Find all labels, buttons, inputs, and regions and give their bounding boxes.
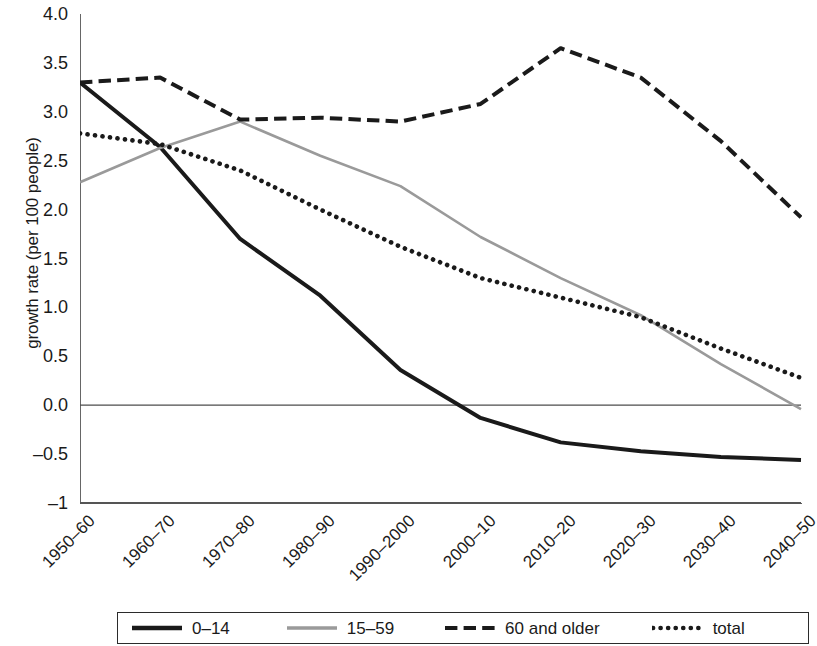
series-line-1 — [80, 122, 801, 410]
solid-gray-line-swatch — [286, 621, 338, 635]
chart-canvas — [80, 14, 802, 504]
data-series-group — [80, 48, 801, 460]
series-line-3 — [80, 133, 801, 378]
legend-label: 0–14 — [192, 620, 230, 637]
plot-area — [80, 14, 802, 504]
x-axis-tick-labels: 1950–601960–701970–801980–901990–2000200… — [0, 504, 817, 599]
y-tick-label: 2.0 — [22, 201, 68, 219]
series-line-2 — [80, 48, 801, 217]
legend-label: total — [713, 620, 745, 637]
axes-group — [80, 14, 801, 504]
x-tick-label: 1950–60 — [0, 512, 99, 646]
legend-item-60-and-older: 60 and older — [444, 620, 600, 637]
y-tick-label: 2.5 — [22, 152, 68, 170]
legend-label: 15–59 — [347, 620, 394, 637]
y-tick-label: –0.5 — [22, 445, 68, 463]
chart-legend: 0–14 15–59 60 and older total — [117, 612, 809, 644]
y-tick-label: 1.5 — [22, 250, 68, 268]
y-axis-tick-labels: 4.03.53.02.52.01.51.00.50.0–0.5–1 — [10, 0, 68, 520]
y-tick-label: 1.0 — [22, 298, 68, 316]
solid-black-line-swatch — [131, 621, 183, 635]
growth-rate-line-chart: growth rate (per 100 people) 4.03.53.02.… — [0, 0, 817, 646]
y-tick-label: 3.5 — [22, 54, 68, 72]
legend-item-0-14: 0–14 — [131, 620, 230, 637]
dashed-black-line-swatch — [444, 621, 496, 635]
y-tick-label: 0.0 — [22, 396, 68, 414]
dotted-black-line-swatch — [652, 621, 704, 635]
legend-label: 60 and older — [505, 620, 600, 637]
y-tick-label: 4.0 — [22, 5, 68, 23]
y-tick-label: 0.5 — [22, 347, 68, 365]
legend-item-total: total — [652, 620, 745, 637]
legend-item-15-59: 15–59 — [286, 620, 394, 637]
y-tick-label: 3.0 — [22, 103, 68, 121]
